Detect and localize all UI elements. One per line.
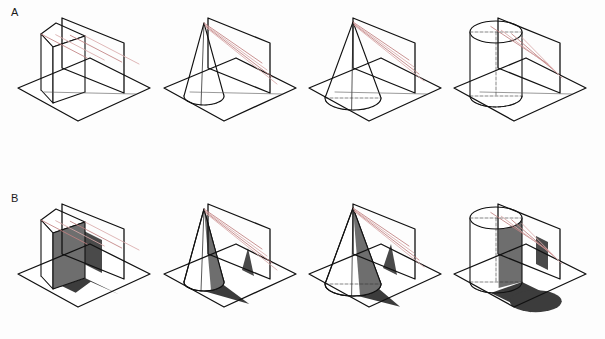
scene-wide-cone-shadowed [309, 204, 441, 307]
scene-cylinder-wireframe [454, 18, 586, 121]
scene-wide-cone-wireframe [309, 18, 441, 121]
projection-figure [0, 0, 605, 339]
scene-rectangular-prism-wireframe [18, 18, 150, 121]
scene-narrow-cone-wireframe [164, 18, 296, 121]
solid-face-right [53, 222, 85, 289]
scene-rectangular-prism-shadowed [18, 204, 150, 307]
solid-face-left [41, 34, 53, 103]
ground-plane-fill [164, 58, 296, 121]
cast-shadow-plane [536, 236, 548, 270]
solid-face-left [41, 220, 53, 289]
scene-cylinder-shadowed [454, 204, 586, 312]
cast-shadow-ellipse [510, 290, 562, 312]
scene-narrow-cone-shadowed [164, 204, 296, 307]
